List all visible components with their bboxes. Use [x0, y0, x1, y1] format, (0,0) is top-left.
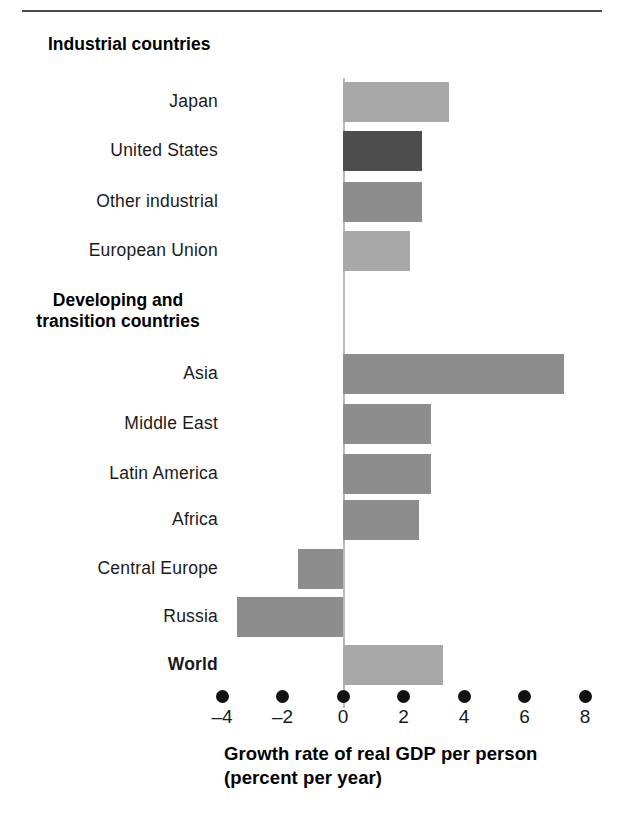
bar-united-states[interactable] [343, 131, 422, 171]
x-tick-label: 2 [384, 706, 424, 728]
bar-european-union[interactable] [343, 231, 410, 271]
x-tick-label: 0 [323, 706, 363, 728]
bar-label-asia: Asia [0, 363, 218, 384]
bar-label-european-union: European Union [0, 240, 218, 261]
group-heading-developing-line2: transition countries [18, 311, 218, 332]
x-tick-label: 8 [565, 706, 605, 728]
bar-label-central-europe: Central Europe [0, 558, 218, 579]
x-tick-dot [397, 690, 410, 703]
bar-label-africa: Africa [0, 509, 218, 530]
bar-label-united-states: United States [0, 140, 218, 161]
bar-latin-america[interactable] [343, 454, 431, 494]
x-axis-title-line1: Growth rate of real GDP per person [224, 742, 538, 766]
bar-russia[interactable] [237, 597, 343, 637]
bar-label-japan: Japan [0, 91, 218, 112]
x-tick-dot [276, 690, 289, 703]
bar-middle-east[interactable] [343, 404, 431, 444]
x-tick-dot [216, 690, 229, 703]
group-heading-developing-line1: Developing and [18, 290, 218, 311]
bar-label-other-industrial: Other industrial [0, 191, 218, 212]
x-tick-dot [518, 690, 531, 703]
bar-label-world: World [0, 654, 218, 675]
bar-asia[interactable] [343, 354, 564, 394]
bar-world[interactable] [343, 645, 443, 685]
x-tick-label: –4 [202, 706, 242, 728]
bar-label-russia: Russia [0, 606, 218, 627]
bar-label-middle-east: Middle East [0, 413, 218, 434]
x-axis-title-line2: (percent per year) [224, 766, 538, 790]
x-tick-label: 6 [505, 706, 545, 728]
bar-label-latin-america: Latin America [0, 463, 218, 484]
group-heading-developing: Developing and transition countries [18, 290, 218, 331]
x-tick-dot [458, 690, 471, 703]
x-axis-title: Growth rate of real GDP per person (perc… [224, 742, 538, 789]
x-tick-dot [337, 690, 350, 703]
bar-central-europe[interactable] [298, 549, 343, 589]
group-heading-industrial: Industrial countries [48, 34, 348, 55]
x-tick-dot [579, 690, 592, 703]
bar-other-industrial[interactable] [343, 182, 422, 222]
x-tick-label: –2 [263, 706, 303, 728]
x-tick-label: 4 [444, 706, 484, 728]
figure-root: Industrial countries Developing and tran… [0, 0, 621, 835]
bar-japan[interactable] [343, 82, 449, 122]
bar-africa[interactable] [343, 500, 419, 540]
